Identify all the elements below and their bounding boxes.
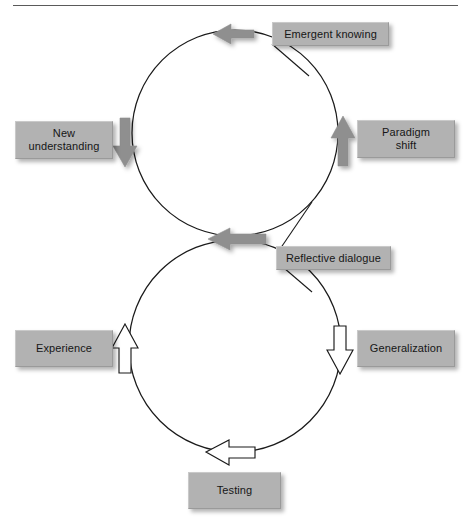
node-experience[interactable]: Experience: [15, 330, 113, 367]
arrow-right-down: [327, 326, 353, 374]
cycle-diagram-graphics: [0, 0, 471, 523]
node-reflective-dialogue[interactable]: Reflective dialogue: [276, 246, 391, 270]
node-new-understanding[interactable]: New understanding: [15, 121, 113, 159]
arrow-left-down: [113, 118, 137, 167]
connector-reflective-to-upper: [278, 202, 312, 252]
node-emergent-knowing[interactable]: Emergent knowing: [272, 22, 389, 46]
node-paradigm-shift[interactable]: Paradigm shift: [357, 120, 455, 158]
lower-cycle-circle: [129, 240, 341, 452]
connector-reflective-to-lower: [284, 268, 312, 292]
arrow-left-up: [112, 324, 138, 373]
arrow-top-left: [213, 24, 254, 44]
diagram-canvas: Emergent knowing New understanding Parad…: [0, 0, 471, 523]
arrow-bottom-left: [206, 440, 255, 465]
node-generalization[interactable]: Generalization: [357, 330, 455, 367]
connector-emergent-knowing: [272, 44, 309, 76]
upper-cycle-circle: [132, 30, 338, 236]
node-testing[interactable]: Testing: [188, 472, 281, 509]
arrow-middle-left: [208, 228, 266, 250]
